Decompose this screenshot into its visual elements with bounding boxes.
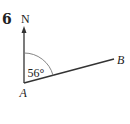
bearing-diagram: 6 N 56° A B	[0, 0, 130, 124]
north-label: N	[21, 12, 30, 26]
north-arrow-icon	[22, 26, 27, 33]
angle-label: 56°	[28, 66, 45, 80]
question-number: 6	[2, 11, 12, 27]
point-b-label: B	[117, 53, 125, 67]
point-a-label: A	[19, 86, 28, 100]
